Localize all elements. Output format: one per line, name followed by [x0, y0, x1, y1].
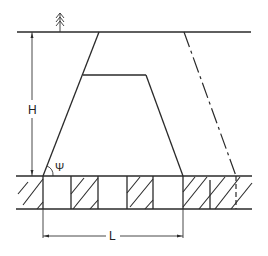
outer-right-slope-dashed-line: [184, 32, 236, 176]
angle-arc: [47, 166, 53, 176]
left-slope-line: [43, 32, 99, 176]
angle-label: Ψ: [55, 161, 64, 173]
foundation-strip: [16, 176, 252, 209]
tree-icon: [56, 13, 64, 32]
height-label: H: [28, 103, 37, 117]
inner-right-slope-line: [146, 75, 183, 176]
length-label: L: [109, 229, 116, 243]
diagram-canvas: H Ψ: [0, 0, 268, 256]
